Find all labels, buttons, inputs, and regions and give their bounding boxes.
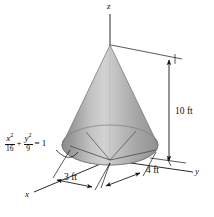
equation-term2-numerator: y2 [24,134,33,144]
z-axis-label: z [107,2,111,11]
cone-solid [62,45,158,165]
equation-fraction-y: y2 9 [24,134,33,153]
equation-term2-exponent: 2 [29,132,32,138]
apex-leader-line [111,45,182,59]
equation-plus-operator: + [16,138,23,148]
y-axis-label: y [195,167,199,176]
equation-term1-numerator: x2 [5,134,14,144]
equation-right-hand-side: 1 [42,138,47,148]
ellipse-equation-label: x2 16 + y2 9 = 1 [5,134,46,153]
equation-term1-exponent: 2 [10,132,13,138]
equation-equals-sign: = [34,138,41,148]
x-dimension-label: 3 ft [64,173,77,183]
cone-figure: z y x 10 ft 3 ft 4 ft x2 16 + y2 9 = 1 [0,0,214,217]
y-dim-extension-inner [101,163,110,188]
equation-term1-denominator: 16 [5,145,15,153]
y-dimension-line [106,173,140,186]
x-dim-extension-inner [95,163,110,190]
y-dimension-label: 4 ft [146,166,159,176]
height-dimension-label: 10 ft [175,107,193,117]
x-axis-label: x [25,190,29,199]
equation-term2-denominator: 9 [25,145,31,153]
equation-fraction-x: x2 16 [5,134,15,153]
